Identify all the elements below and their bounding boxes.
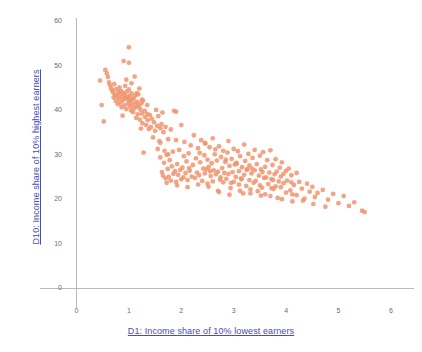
data-point [145, 112, 150, 117]
data-point [229, 156, 234, 161]
x-tick-label: 2 [173, 307, 189, 314]
data-point [217, 144, 222, 149]
data-point [168, 178, 173, 183]
data-point [289, 180, 294, 185]
data-point [280, 160, 285, 165]
data-point [248, 191, 253, 196]
x-tick-label: 4 [278, 307, 294, 314]
data-point [270, 163, 275, 168]
data-point [226, 139, 231, 144]
data-point [200, 179, 205, 184]
data-point [134, 91, 139, 96]
data-point [166, 152, 171, 157]
data-point [221, 148, 226, 153]
data-point [362, 210, 367, 215]
data-point [190, 163, 195, 168]
data-point [131, 110, 136, 115]
data-point [158, 140, 163, 145]
data-point [176, 172, 181, 177]
data-point [206, 184, 211, 189]
data-point [230, 170, 235, 175]
x-tick-label: 1 [121, 307, 137, 314]
data-point [129, 81, 134, 86]
data-point [126, 45, 131, 50]
data-point [263, 164, 268, 169]
data-point [289, 173, 294, 178]
data-point [184, 159, 189, 164]
data-point [213, 147, 218, 152]
data-point [205, 157, 210, 162]
data-point [99, 103, 104, 108]
data-point [254, 162, 259, 167]
data-point [185, 185, 190, 190]
data-point [175, 162, 180, 167]
data-point [182, 140, 187, 145]
data-point [237, 169, 242, 174]
data-point [235, 149, 240, 154]
data-point [276, 179, 281, 184]
data-point [180, 165, 185, 170]
data-point [299, 186, 304, 191]
data-point [126, 87, 131, 92]
data-point [219, 155, 224, 160]
data-point [210, 179, 215, 184]
data-point [226, 172, 231, 177]
data-point [121, 59, 126, 64]
data-point [268, 194, 273, 199]
x-tick-label: 3 [226, 307, 242, 314]
y-tick-label: 0 [44, 284, 62, 291]
data-point [252, 148, 257, 153]
data-point [196, 182, 201, 187]
data-point [227, 164, 232, 169]
data-point [220, 166, 225, 171]
data-point [196, 146, 201, 151]
data-point [307, 189, 312, 194]
data-point [145, 103, 150, 108]
data-point [263, 192, 268, 197]
data-point [188, 143, 193, 148]
data-point [265, 158, 270, 163]
data-point [162, 160, 167, 165]
data-point [267, 170, 272, 175]
data-point [229, 180, 234, 185]
data-point [271, 178, 276, 183]
x-tick-label: 0 [69, 307, 85, 314]
data-point [181, 175, 186, 180]
data-point [305, 181, 310, 186]
data-point [183, 171, 188, 176]
data-point [320, 187, 325, 192]
data-point [197, 151, 202, 156]
data-point [202, 140, 207, 145]
data-point [174, 138, 179, 143]
data-point [242, 172, 247, 177]
data-point [300, 198, 305, 203]
data-point [243, 159, 248, 164]
data-point [227, 192, 232, 197]
data-point [153, 128, 158, 133]
data-point [193, 175, 198, 180]
data-point [207, 145, 212, 150]
data-point [238, 154, 243, 159]
data-point [155, 147, 160, 152]
data-point [164, 180, 169, 185]
data-point [215, 158, 220, 163]
data-point [179, 123, 184, 128]
data-point [277, 165, 282, 170]
data-point [186, 151, 191, 156]
data-point [331, 191, 336, 196]
data-point [167, 158, 172, 163]
data-point [284, 190, 289, 195]
data-point [242, 142, 247, 147]
data-point [290, 199, 295, 204]
data-point [278, 185, 283, 190]
scatter-chart: 0102030405060 0123456 D1: Income share o… [0, 0, 422, 352]
data-point [144, 123, 149, 128]
data-point [160, 110, 165, 115]
data-point [244, 183, 249, 188]
data-point [156, 114, 161, 119]
data-point [120, 113, 125, 118]
data-point [158, 155, 163, 160]
data-point [275, 195, 280, 200]
data-point [210, 136, 215, 141]
data-point [237, 182, 242, 187]
